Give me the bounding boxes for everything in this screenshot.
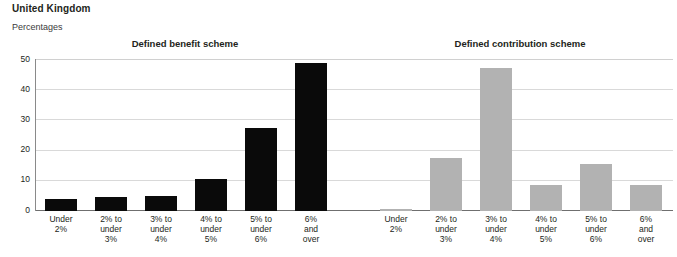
x-tick-defined-benefit-0: Under 2%: [36, 214, 86, 234]
bar-defined-benefit-1: [95, 197, 127, 211]
x-axis-tick-labels: Under 2%2% to under 3%3% to under 4%4% t…: [0, 214, 677, 257]
bar-defined-benefit-5: [295, 63, 327, 211]
bar-defined-contribution-0: [380, 209, 412, 211]
bar-defined-contribution-4: [580, 164, 612, 211]
x-tick-defined-contribution-1: 2% to under 3%: [421, 214, 471, 245]
bar-defined-benefit-3: [195, 179, 227, 211]
x-tick-defined-benefit-2: 3% to under 4%: [136, 214, 186, 245]
bar-defined-contribution-3: [530, 185, 562, 211]
panel-title-defined-benefit: Defined benefit scheme: [35, 38, 335, 49]
x-tick-defined-contribution-2: 3% to under 4%: [471, 214, 521, 245]
bar-defined-benefit-4: [245, 128, 277, 211]
x-tick-defined-contribution-5: 6% and over: [621, 214, 671, 245]
x-tick-defined-benefit-3: 4% to under 5%: [186, 214, 236, 245]
x-tick-defined-benefit-1: 2% to under 3%: [86, 214, 136, 245]
plot-area: 01020304050: [0, 50, 677, 215]
x-tick-defined-benefit-5: 6% and over: [286, 214, 336, 245]
panel-title-defined-contribution: Defined contribution scheme: [370, 38, 670, 49]
bar-defined-benefit-0: [45, 199, 77, 211]
bar-defined-contribution-2: [480, 68, 512, 211]
bar-defined-contribution-1: [430, 158, 462, 211]
bar-defined-benefit-2: [145, 196, 177, 211]
x-tick-defined-contribution-4: 5% to under 6%: [571, 214, 621, 245]
x-tick-defined-contribution-0: Under 2%: [371, 214, 421, 234]
bars-layer: [0, 50, 677, 211]
chart-country-title: United Kingdom: [12, 3, 91, 14]
chart-units-label: Percentages: [12, 22, 63, 32]
x-tick-defined-benefit-4: 5% to under 6%: [236, 214, 286, 245]
bar-defined-contribution-5: [630, 185, 662, 211]
x-tick-defined-contribution-3: 4% to under 5%: [521, 214, 571, 245]
chart-figure: United Kingdom Percentages Defined benef…: [0, 0, 677, 257]
